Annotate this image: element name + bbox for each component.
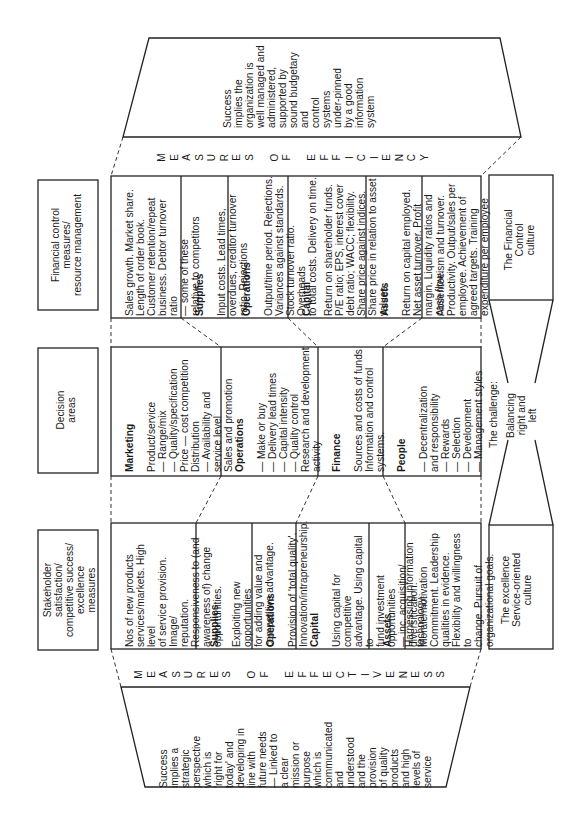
decision-cell-operations: Operations — Make or buy — Delivery lead… (223, 347, 333, 472)
effectiveness-success-text: Success implies a strategic perspective … (158, 698, 433, 788)
challenge-label: The challenge: (488, 368, 499, 448)
service-oriented-culture: The excellence Service-oriented culture (500, 535, 533, 645)
header-decision-areas: Decision areas (55, 380, 77, 440)
header-stakeholder: Stakeholder satisfaction/ competitive su… (42, 535, 97, 645)
efficiency-success-text: Success implies the organization is well… (222, 38, 376, 128)
financial-control-culture: The Financial Control culture (503, 190, 536, 290)
efficiency-cell-people: Absenteeism and turnover. Productivity. … (424, 178, 501, 316)
decision-cell-people: People — Decentralization and responsibi… (385, 347, 495, 472)
balancing-label: Balancing right and left (505, 388, 538, 443)
effectiveness-cell-people: Morale/motivation Commitment. Leadership… (407, 525, 506, 647)
header-financial-control: Financial control measures/ resource man… (50, 185, 83, 305)
